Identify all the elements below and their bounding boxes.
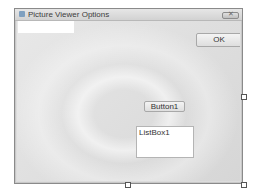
listbox-item[interactable]: ListBox1 bbox=[139, 128, 191, 137]
close-button[interactable]: ✕ bbox=[222, 12, 239, 19]
form-designer-surface: Picture Viewer Options ✕ OK Button1 List… bbox=[0, 0, 260, 196]
close-icon: ✕ bbox=[223, 10, 238, 18]
button1[interactable]: Button1 bbox=[144, 101, 185, 112]
resize-handle-bottom-right[interactable] bbox=[241, 182, 247, 188]
form-icon bbox=[19, 11, 25, 17]
title-bar[interactable]: Picture Viewer Options ✕ bbox=[15, 9, 242, 21]
form-client-area[interactable]: OK Button1 ListBox1 bbox=[17, 21, 240, 181]
window-title: Picture Viewer Options bbox=[28, 9, 109, 20]
textbox[interactable] bbox=[18, 21, 74, 33]
resize-handle-right[interactable] bbox=[241, 94, 247, 100]
form-window[interactable]: Picture Viewer Options ✕ OK Button1 List… bbox=[14, 8, 243, 184]
ok-button[interactable]: OK bbox=[196, 33, 240, 47]
listbox[interactable]: ListBox1 bbox=[136, 126, 194, 158]
resize-handle-bottom[interactable] bbox=[125, 182, 131, 188]
